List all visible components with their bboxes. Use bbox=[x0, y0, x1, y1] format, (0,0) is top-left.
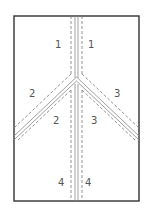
diagonal-right bbox=[77, 77, 140, 136]
outer-frame bbox=[14, 16, 139, 201]
region-label: 3 bbox=[114, 88, 120, 99]
dashed-diagonal bbox=[14, 74, 71, 128]
region-label: 1 bbox=[55, 39, 61, 50]
dashed-diagonal bbox=[82, 90, 135, 140]
diagonal-right bbox=[77, 81, 140, 140]
fold-diagram: 1 1 2 3 2 3 4 4 bbox=[0, 0, 149, 215]
region-label: 4 bbox=[85, 177, 91, 188]
diagonal-left bbox=[14, 81, 77, 140]
region-label: 2 bbox=[53, 115, 59, 126]
region-label: 4 bbox=[58, 177, 64, 188]
region-label: 2 bbox=[29, 88, 35, 99]
diagonal-left bbox=[14, 77, 77, 136]
region-label: 1 bbox=[88, 39, 94, 50]
region-label: 3 bbox=[91, 115, 97, 126]
dashed-diagonal bbox=[18, 90, 71, 140]
